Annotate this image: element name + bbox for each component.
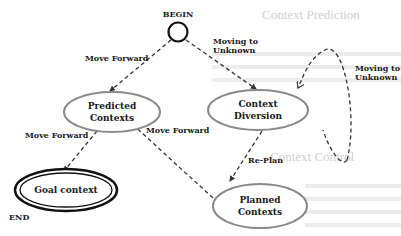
edge-self-loop-tail [323,130,347,162]
end-label: END [9,212,29,222]
node-context-diversion: Context Diversion [208,90,308,130]
node-predicted-contexts: Predicted Contexts [64,92,160,132]
node-predicted-line2: Contexts [90,113,134,123]
state-diagram: BEGIN Move Forward Moving to Unknown Mov… [0,0,401,236]
edge-label-predicted-goal: Move Forward [25,130,89,140]
edge-label-self-loop-2: Unknown [355,72,397,82]
node-goal-label: Goal context [34,185,98,195]
edge-label-begin-predicted: Move Forward [85,53,149,63]
node-planned-contexts: Planned Contexts [213,184,307,228]
begin-label: BEGIN [163,9,194,19]
begin-state-icon [169,23,188,42]
node-diversion-line1: Context [238,99,278,109]
edge-label-replan: Re-Plan [248,155,283,165]
node-planned-line1: Planned [239,195,281,205]
node-planned-line2: Contexts [238,207,282,217]
edge-label-begin-diversion-2: Unknown [213,45,255,55]
node-predicted-line1: Predicted [88,101,137,111]
node-goal-context: Goal context [15,169,117,211]
edge-begin-to-predicted [110,40,171,91]
edge-label-planned-predicted: Move Forward [146,125,210,135]
node-diversion-line2: Diversion [234,111,282,121]
